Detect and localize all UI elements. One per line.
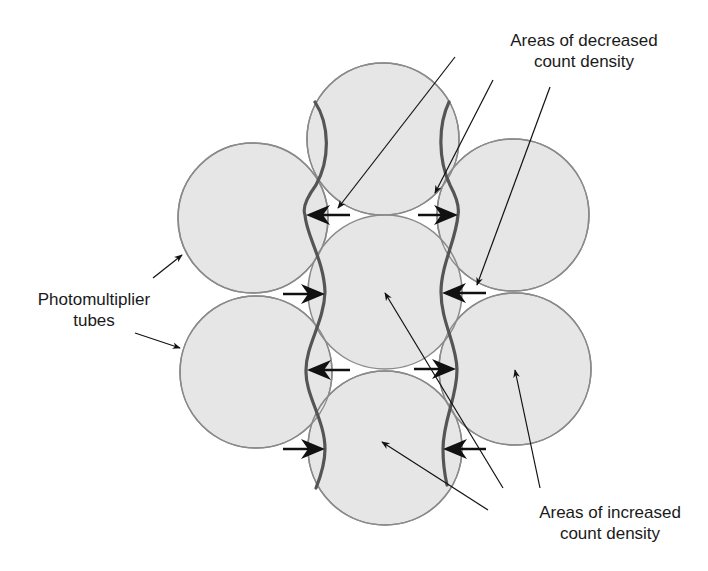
tube-center [308, 215, 462, 369]
tube-bottom-right [439, 293, 591, 445]
label-photomultiplier-tubes: Photomultiplier tubes [14, 289, 174, 331]
tube-bottom [308, 371, 462, 525]
tube-bottom-left [180, 296, 332, 448]
label-decreased-count-density: Areas of decreased count density [464, 30, 704, 72]
label-increased-line2: count density [500, 523, 708, 544]
tube-top [307, 63, 459, 215]
label-decreased-line2: count density [464, 51, 704, 72]
pmt-array-diagram [0, 0, 708, 571]
label-increased-line1: Areas of increased [500, 502, 708, 523]
label-decreased-line1: Areas of decreased [464, 30, 704, 51]
label-pmt-line1: Photomultiplier [14, 289, 174, 310]
label-increased-count-density: Areas of increased count density [500, 502, 708, 544]
label-pmt-line2: tubes [14, 310, 174, 331]
tube-top-right [437, 139, 589, 291]
